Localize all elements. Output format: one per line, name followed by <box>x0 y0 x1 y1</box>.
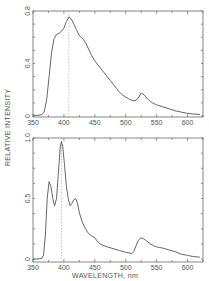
x-tick-label: 600 <box>182 119 194 126</box>
spectra-figure: 350400450500550600 00.40.8 3504004505005… <box>0 0 209 281</box>
bottom-spectrum-curve <box>33 142 200 259</box>
bottom-plot-frame <box>33 138 203 262</box>
x-tick-label: 350 <box>27 119 39 126</box>
top-y-tick-labels: 00.40.8 <box>24 6 31 118</box>
top-ticks <box>33 11 203 117</box>
top-spectrum-curve <box>33 17 200 115</box>
y-tick-label: 0 <box>24 114 31 118</box>
y-tick-label: 0.4 <box>24 59 31 69</box>
x-tick-label: 550 <box>151 119 163 126</box>
y-tick-label: 0.8 <box>24 6 31 16</box>
bottom-x-tick-labels: 350400450500550600 <box>27 264 193 271</box>
bottom-ticks <box>33 138 203 262</box>
x-tick-label: 550 <box>151 264 163 271</box>
y-axis-title: RELATIVE INTENSITY <box>4 89 11 166</box>
y-tick-label: 1.0 <box>24 133 31 143</box>
x-tick-label: 450 <box>89 119 101 126</box>
bottom-spectrum-panel: 350400450500550600 00.51.0 <box>24 133 203 271</box>
bottom-y-tick-labels: 00.51.0 <box>24 133 31 261</box>
top-plot-frame <box>33 11 203 117</box>
top-x-tick-labels: 350400450500550600 <box>27 119 193 126</box>
x-tick-label: 450 <box>89 264 101 271</box>
y-tick-label: 0 <box>24 257 31 261</box>
x-tick-label: 500 <box>120 119 132 126</box>
top-spectrum-panel: 350400450500550600 00.40.8 <box>24 6 203 126</box>
x-tick-label: 400 <box>58 119 70 126</box>
x-tick-label: 400 <box>58 264 70 271</box>
x-axis-title: WAVELENGTH, nm <box>72 272 138 279</box>
x-tick-label: 500 <box>120 264 132 271</box>
x-tick-label: 600 <box>182 264 194 271</box>
x-tick-label: 350 <box>27 264 39 271</box>
y-tick-label: 0.5 <box>24 194 31 204</box>
